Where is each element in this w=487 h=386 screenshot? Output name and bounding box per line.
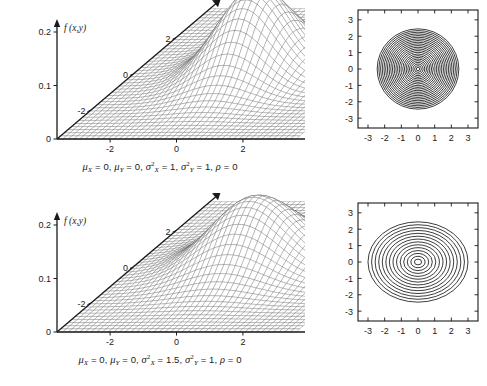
svg-text:1: 1 [348,48,353,58]
svg-text:-2: -2 [345,97,353,107]
svg-text:3: 3 [465,133,470,143]
svg-text:0: 0 [46,327,51,337]
svg-text:0: 0 [348,257,353,267]
rho-value-bottom: 0 [236,354,241,365]
svg-text:-2: -2 [77,106,85,116]
svg-text:f (x,y): f (x,y) [64,23,86,34]
bivariate-normal-figure: 00.10.2f (x,y)-202x-202y -3-2-101233210-… [0,0,487,386]
svg-text:-3: -3 [345,114,353,124]
contour-plot-top: -3-2-101233210-1-2-3 [320,0,487,160]
svg-text:0.1: 0.1 [38,81,51,91]
svg-text:1: 1 [348,241,353,251]
svg-text:2: 2 [449,133,454,143]
svg-text:-3: -3 [345,307,353,317]
caption-bottom: μX = 0, μY = 0, σ2X = 1.5, σ2Y = 1, ρ = … [0,351,320,370]
svg-text:f (x,y): f (x,y) [64,216,86,227]
svg-text:2: 2 [165,34,170,44]
svg-text:0: 0 [415,326,420,336]
caption-top: μX = 0, μY = 0, σ2X = 1, σ2Y = 1, ρ = 0 [0,158,320,177]
svg-text:-3: -3 [364,326,372,336]
surface-plot-bottom: 00.10.2f (x,y)-202x-202y [0,193,305,353]
svg-text:-1: -1 [397,326,405,336]
svg-text:-1: -1 [345,81,353,91]
svg-text:0: 0 [174,144,179,154]
svg-text:2: 2 [449,326,454,336]
svg-text:-2: -2 [106,144,114,154]
svg-text:3: 3 [465,326,470,336]
svg-text:-1: -1 [397,133,405,143]
svg-text:3: 3 [348,15,353,25]
sigma-x-value-bottom: 1.5 [166,354,180,365]
svg-text:1: 1 [432,133,437,143]
svg-text:-1: -1 [345,274,353,284]
contour-plot-bottom: -3-2-101233210-1-2-3 [320,193,487,353]
svg-text:0: 0 [348,64,353,74]
svg-text:-2: -2 [345,290,353,300]
surface-plot-top: 00.10.2f (x,y)-202x-202y [0,0,305,160]
svg-text:2: 2 [348,225,353,235]
svg-text:-2: -2 [381,133,389,143]
svg-text:-2: -2 [77,299,85,309]
svg-text:-2: -2 [106,337,114,347]
panel-top: 00.10.2f (x,y)-202x-202y -3-2-101233210-… [0,0,487,193]
svg-text:0: 0 [123,263,128,273]
svg-text:2: 2 [240,144,245,154]
svg-text:2: 2 [165,227,170,237]
svg-text:0: 0 [46,134,51,144]
rho-value-top: 0 [232,161,237,172]
svg-text:-2: -2 [381,326,389,336]
svg-text:-3: -3 [364,133,372,143]
svg-text:0: 0 [415,133,420,143]
svg-text:2: 2 [240,337,245,347]
svg-text:0: 0 [174,337,179,347]
svg-text:1: 1 [432,326,437,336]
svg-text:2: 2 [348,32,353,42]
svg-text:3: 3 [348,208,353,218]
svg-text:0.1: 0.1 [38,274,51,284]
panel-bottom: 00.10.2f (x,y)-202x-202y -3-2-101233210-… [0,193,487,386]
svg-text:0.2: 0.2 [38,27,51,37]
svg-text:0.2: 0.2 [38,220,51,230]
svg-text:0: 0 [123,70,128,80]
